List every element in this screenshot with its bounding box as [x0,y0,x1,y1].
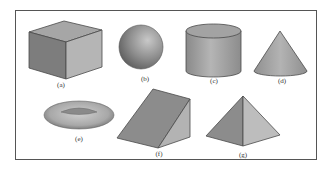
cube-label: (a) [57,81,65,89]
cylinder-top [186,24,241,38]
wedge-label: (f) [156,150,164,158]
torus-shape [44,101,114,129]
cube-shape [29,21,102,79]
sphere-label: (b) [141,75,150,83]
cylinder-label: (c) [210,77,218,85]
geometric-solids-figure: (a) (b) (c) (d) (e) (f) (g) [0,0,327,173]
torus-outer [44,101,114,129]
pyramid-label: (g) [239,151,248,159]
torus-label: (e) [75,135,83,143]
cylinder-shape [186,24,241,77]
cone-label: (d) [278,77,287,85]
sphere-shape [119,25,163,69]
